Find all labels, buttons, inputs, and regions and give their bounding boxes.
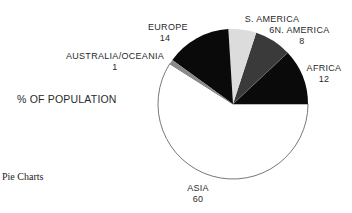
label-s-america: S. AMERICA [242, 14, 302, 25]
label-asia-value: 60 [183, 194, 213, 205]
label-africa-value: 12 [304, 74, 344, 85]
chart-title: % OF POPULATION [17, 93, 117, 105]
label-africa: AFRICA 12 [304, 63, 344, 85]
figure-caption: Pie Charts [2, 171, 43, 182]
label-africa-name: AFRICA [304, 63, 344, 74]
label-australia-value: 1 [60, 62, 170, 73]
label-europe-value: 14 [148, 33, 182, 44]
label-n-america: N. AMERICA 8 [274, 25, 330, 47]
label-n-america-value: 8 [274, 36, 330, 47]
label-asia-name: ASIA [183, 183, 213, 194]
label-australia-name: AUSTRALIA/OCEANIA [60, 51, 170, 62]
label-australia-oceania: AUSTRALIA/OCEANIA 1 [60, 51, 170, 73]
label-s-america-name: S. AMERICA [242, 14, 302, 25]
label-europe: EUROPE 14 [148, 22, 182, 44]
label-asia: ASIA 60 [183, 183, 213, 205]
label-n-america-name: N. AMERICA [274, 25, 330, 36]
label-europe-name: EUROPE [148, 22, 182, 33]
